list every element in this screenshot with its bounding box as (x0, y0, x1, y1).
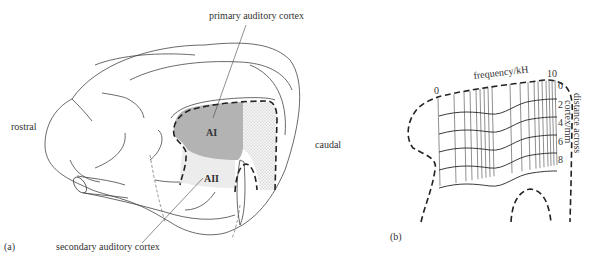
frequency-iso-lines (438, 80, 557, 186)
sulcus-1 (102, 93, 144, 118)
sulcus-5 (150, 130, 162, 160)
y-tick-labels: 02468 (558, 80, 563, 165)
secondary-callout-leader (142, 178, 203, 243)
region-ai-label: AI (206, 127, 217, 138)
x-axis-max-label: 10 (547, 68, 557, 79)
frequency-iso-line (464, 92, 466, 181)
panel-b-label: (b) (390, 231, 402, 243)
y-tick-label: 6 (558, 136, 563, 147)
frequency-iso-line (534, 82, 536, 169)
x-axis-min-label: 0 (434, 85, 439, 96)
distance-iso-line (439, 171, 557, 188)
frequency-iso-line (528, 82, 530, 170)
frequency-iso-line (438, 98, 440, 186)
distance-iso-line (439, 99, 557, 116)
rostral-label: rostral (11, 121, 37, 132)
frequency-iso-line (510, 84, 512, 173)
y-axis-title-line2: cortex/mm (563, 100, 574, 144)
temporal-line-3 (185, 192, 215, 210)
olfactory-stalk (77, 176, 128, 198)
x-axis-title: frequency/kH (473, 63, 529, 81)
inner-structure-1 (237, 160, 245, 225)
y-tick-label: 2 (558, 99, 563, 110)
gyrus-line-upper-right (95, 54, 195, 65)
frequency-iso-line (555, 80, 557, 165)
frequency-iso-line (542, 81, 544, 167)
y-tick-label: 4 (558, 117, 563, 128)
caudal-label: caudal (315, 139, 341, 150)
frequency-iso-line (538, 81, 540, 168)
frequency-iso-line (480, 89, 482, 179)
region-aii-label: AII (204, 173, 219, 184)
map-inner-bump-dash (511, 189, 551, 222)
frequency-iso-line (484, 88, 486, 178)
gyrus-line-top (130, 62, 292, 90)
distance-iso-line (439, 153, 557, 170)
panel-a-label: (a) (4, 241, 15, 253)
temporal-line-1 (85, 193, 235, 219)
sulcus-3 (95, 133, 125, 168)
auditory-cortex-figure: primary auditory cortex secondary audito… (0, 0, 602, 258)
frequency-iso-line (476, 90, 478, 180)
frequency-iso-line (454, 94, 456, 183)
panel-b-tonotopic-map: frequency/kH 0 10 02468 distance across … (390, 63, 583, 243)
frequency-iso-line (492, 87, 494, 177)
sulcus-2 (72, 99, 92, 121)
y-tick-label: 0 (558, 80, 563, 91)
frequency-iso-line (470, 91, 472, 180)
y-tick-label: 8 (558, 154, 563, 165)
primary-callout-label: primary auditory cortex (209, 10, 304, 21)
stipple-region (243, 102, 277, 190)
secondary-callout-label: secondary auditory cortex (56, 241, 160, 252)
panel-a-brain: primary auditory cortex secondary audito… (4, 10, 341, 253)
